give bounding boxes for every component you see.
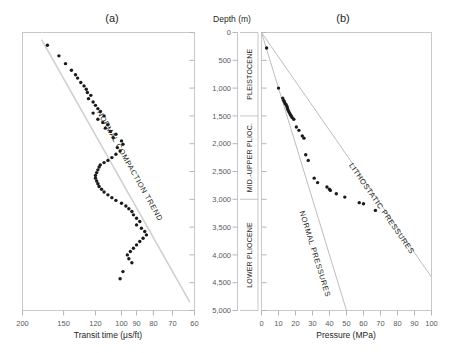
data-point (362, 202, 365, 205)
data-point (143, 230, 146, 233)
data-point (124, 204, 127, 207)
data-point (114, 153, 117, 156)
stratigraphic-column: PLEISTOCENEMID.-UPPER PLIOC.LOWER PLIOCE… (240, 33, 258, 311)
data-point (120, 201, 123, 204)
data-point (102, 161, 105, 164)
data-point (304, 153, 307, 156)
panel-b-frame (262, 33, 432, 311)
data-point (316, 181, 319, 184)
depth-tick-label: 0 (227, 28, 231, 37)
depth-tick-label: 4,500 (212, 278, 231, 287)
panel-b-x-tick-labels: 0102030405060708090100 (259, 319, 437, 328)
panel-b-x-ticks (262, 311, 432, 316)
data-point (325, 185, 328, 188)
panel-b-x-tick-label: 90 (410, 319, 418, 328)
data-point (277, 86, 280, 89)
data-point (297, 129, 300, 132)
data-point (126, 253, 129, 256)
depth-axis: 05001,0001,5002,0002,5003,0003,5004,0004… (190, 28, 267, 315)
data-point (140, 227, 143, 230)
data-point (46, 44, 49, 47)
panel-a-x-tick-label: 150 (57, 319, 70, 328)
data-point (138, 240, 141, 243)
normal-compaction-trend-label: NORMAL COMPACTION TREND (95, 109, 165, 223)
data-point (91, 111, 94, 114)
data-point (145, 233, 148, 236)
data-point (100, 188, 103, 191)
figure-svg: (a) (b) Depth (m) 05001,0001,5002,0002,5… (0, 0, 456, 353)
normal-pressure-line (262, 33, 347, 311)
data-point (135, 223, 138, 226)
depth-tick-labels: 05001,0001,5002,0002,5003,0003,5004,0004… (212, 28, 231, 315)
depth-tick-group (233, 33, 238, 311)
data-point (110, 156, 113, 159)
data-point (141, 237, 144, 240)
data-point (106, 159, 109, 162)
depth-tick-label: 1,500 (212, 112, 231, 121)
data-point (358, 201, 361, 204)
data-point (121, 270, 124, 273)
panel-b-x-tick-label: 50 (342, 319, 350, 328)
depth-axis-title: Depth (m) (213, 14, 251, 24)
data-point (135, 217, 138, 220)
data-point (295, 125, 298, 128)
strat-unit-labels: PLEISTOCENEMID.-UPPER PLIOC.LOWER PLIOCE… (246, 49, 253, 288)
data-point (132, 247, 135, 250)
data-point (138, 220, 141, 223)
data-point (343, 195, 346, 198)
data-point (74, 73, 77, 76)
panel-b-x-tick-label: 70 (376, 319, 384, 328)
data-point (70, 69, 73, 72)
depth-tick-label: 4,000 (212, 251, 231, 260)
data-point (335, 192, 338, 195)
data-point (114, 199, 117, 202)
data-point (106, 193, 109, 196)
panel-a-x-tick-labels: 20015012010090807060 (16, 319, 198, 328)
panel-a-x-tick-label: 120 (89, 319, 102, 328)
data-point (129, 250, 132, 253)
depth-tick-label: 3,500 (212, 223, 231, 232)
panel-b-x-tick-label: 20 (291, 319, 299, 328)
data-point (307, 159, 310, 162)
panel-b-x-tick-label: 100 (425, 319, 438, 328)
panel-a-plot: 20015012010090807060 Transit time (μs/ft… (16, 40, 198, 340)
depth-tick-label: 2,000 (212, 139, 231, 148)
depth-tick-group-a (190, 33, 195, 311)
data-point (130, 210, 133, 213)
data-point (132, 213, 135, 216)
strat-unit-label: MID.-UPPER PLIOC. (246, 123, 253, 193)
panel-b-x-tick-label: 30 (308, 319, 316, 328)
data-point (292, 118, 295, 121)
panel-b-x-tick-label: 40 (325, 319, 333, 328)
panel-b-x-tick-label: 10 (274, 319, 282, 328)
depth-tick-label: 3,000 (212, 195, 231, 204)
panel-b-x-tick-label: 80 (393, 319, 401, 328)
data-point (85, 88, 88, 91)
data-point (118, 277, 121, 280)
data-point (89, 94, 92, 97)
data-point (91, 100, 94, 103)
data-point (313, 176, 316, 179)
data-point (79, 81, 82, 84)
strat-unit-label: LOWER PLIOCENE (246, 222, 253, 288)
panel-a-frame (23, 33, 195, 311)
panel-a-x-tick-label: 80 (149, 319, 157, 328)
panel-a-x-tick-label: 60 (190, 319, 198, 328)
data-point (265, 46, 268, 49)
panel-a-x-tick-label: 70 (168, 319, 176, 328)
data-point (102, 190, 105, 193)
panel-b-data-points (265, 46, 377, 212)
depth-tick-label: 2,500 (212, 167, 231, 176)
data-point (127, 207, 130, 210)
panel-b-label: (b) (336, 12, 349, 24)
data-point (374, 209, 377, 212)
strat-unit-label: PLEISTOCENE (246, 49, 253, 100)
figure-container: (a) (b) Depth (m) 05001,0001,5002,0002,5… (0, 0, 456, 353)
normal-compaction-trend-line (42, 40, 190, 302)
normal-pressure-label: NORMAL PRESSURES (298, 210, 333, 298)
data-point (127, 257, 130, 260)
panel-a-x-tick-label: 90 (132, 319, 140, 328)
data-point (76, 76, 79, 79)
panel-b-x-axis-title: Pressure (MPa) (316, 330, 376, 340)
panel-b-x-tick-label: 60 (359, 319, 367, 328)
